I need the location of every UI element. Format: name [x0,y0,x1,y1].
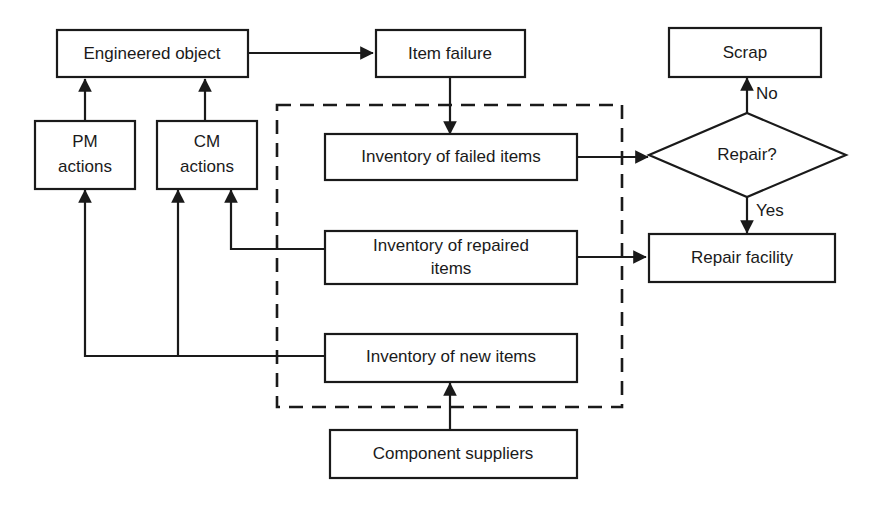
node-component-suppliers[interactable]: Component suppliers [330,430,577,478]
component-suppliers-label: Component suppliers [373,444,534,463]
node-inventory-repaired-items[interactable]: Inventory of repaired items [325,231,577,284]
node-repair-decision[interactable]: Repair? [649,113,846,197]
flowchart-svg: Scrap --> Repair facility --> Engineered… [0,0,872,508]
node-inventory-failed-items[interactable]: Inventory of failed items [325,134,577,180]
inventory-new-items-label: Inventory of new items [366,347,536,366]
edge-inventory-new-to-pm-actions [85,190,325,356]
item-failure-label: Item failure [408,44,492,63]
node-engineered-object[interactable]: Engineered object [57,30,248,77]
edge-inventory-new-to-cm-actions [178,190,325,356]
node-item-failure[interactable]: Item failure [376,30,525,77]
pm-actions-label-line1: PM [72,132,98,151]
cm-actions-label-line2: actions [180,157,234,176]
node-pm-actions[interactable]: PM actions [35,121,135,189]
edge-label-no: No [756,84,778,103]
pm-actions-label-line2: actions [58,157,112,176]
repair-decision-label: Repair? [717,145,777,164]
inventory-repaired-items-label-line1: Inventory of repaired [373,236,529,255]
node-inventory-new-items[interactable]: Inventory of new items [325,334,577,382]
scrap-label: Scrap [723,43,767,62]
node-scrap[interactable]: Scrap [669,28,821,77]
edge-label-yes: Yes [756,201,784,220]
repair-facility-label: Repair facility [691,248,794,267]
engineered-object-label: Engineered object [83,44,220,63]
node-repair-facility[interactable]: Repair facility [649,234,835,282]
inventory-failed-items-label: Inventory of failed items [361,147,541,166]
flowchart-canvas: Scrap --> Repair facility --> Engineered… [0,0,872,508]
cm-actions-box[interactable] [157,121,257,189]
node-cm-actions[interactable]: CM actions [157,121,257,189]
pm-actions-box[interactable] [35,121,135,189]
cm-actions-label-line1: CM [194,132,220,151]
inventory-repaired-items-label-line2: items [431,259,472,278]
